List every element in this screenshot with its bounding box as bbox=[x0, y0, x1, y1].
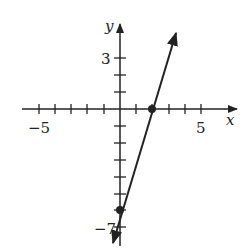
x-tick-label-5: 5 bbox=[196, 119, 206, 137]
x-axis-label: x bbox=[226, 111, 235, 129]
coordinate-plane: y x −5 5 3 −7 bbox=[0, 0, 245, 251]
x-tick-label-neg5: −5 bbox=[28, 119, 50, 137]
y-intercept-point bbox=[116, 206, 124, 214]
y-axis-label: y bbox=[104, 17, 114, 35]
y-tick-label-neg7: −7 bbox=[94, 220, 116, 238]
x-intercept-point bbox=[148, 105, 156, 113]
y-tick-label-3: 3 bbox=[101, 50, 111, 68]
